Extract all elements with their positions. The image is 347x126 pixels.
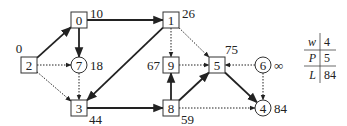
node-0: 010 (71, 6, 103, 28)
edge-5-to-4 (225, 72, 257, 102)
node-id-label: 1 (168, 13, 175, 28)
node-8: 859 (163, 100, 194, 126)
edge-1-to-5 (179, 28, 209, 57)
node-id-label: 4 (260, 101, 267, 116)
table-key-l: L (308, 68, 316, 82)
edge-8-to-5 (179, 72, 209, 100)
node-id-label: 3 (76, 101, 83, 116)
distance-label: 84 (274, 101, 288, 116)
node-7: 718 (71, 57, 103, 73)
distance-label: 59 (181, 112, 194, 126)
distance-label: 44 (89, 112, 103, 126)
edge-2-to-3 (37, 72, 71, 101)
node-1: 126 (163, 6, 196, 28)
node-id-label: 9 (168, 58, 175, 73)
node-id-label: 5 (214, 58, 221, 73)
node-2: 20 (16, 41, 37, 73)
distance-label: 67 (147, 58, 161, 73)
distance-label: ∞ (274, 58, 283, 73)
node-id-label: 0 (76, 13, 83, 28)
shortest-path-graph: 200107183441269678595756∞484 w 4 P 5 L 8… (0, 0, 347, 126)
node-5: 575 (209, 42, 238, 73)
distance-label: 26 (182, 6, 196, 21)
node-id-label: 8 (168, 101, 175, 116)
distance-label: 75 (225, 42, 238, 57)
node-3: 344 (71, 100, 103, 126)
node-9: 967 (147, 57, 179, 73)
edge-2-to-0 (37, 27, 71, 58)
node-id-label: 7 (76, 58, 83, 73)
table-value-l: 84 (324, 68, 336, 82)
node-6: 6∞ (255, 57, 283, 73)
info-table: w 4 P 5 L 84 (304, 33, 336, 83)
distance-label: 10 (90, 6, 103, 21)
node-4: 484 (255, 100, 288, 116)
table-value-w: 4 (324, 35, 330, 49)
distance-label: 18 (90, 58, 103, 73)
table-key-w: w (308, 35, 316, 49)
table-key-p: P (308, 51, 317, 65)
node-id-label: 2 (26, 58, 33, 73)
table-value-p: 5 (324, 51, 330, 65)
distance-label: 0 (16, 41, 23, 56)
node-id-label: 6 (260, 58, 267, 73)
